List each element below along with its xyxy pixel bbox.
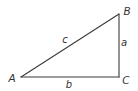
- side-label-b: b: [66, 80, 72, 90]
- side-label-c: c: [62, 35, 68, 45]
- side-c-hypotenuse: [21, 14, 119, 77]
- side-label-a: a: [121, 38, 127, 48]
- vertex-label-a: A: [8, 73, 15, 83]
- right-triangle-diagram: [0, 0, 138, 91]
- vertex-label-c: C: [122, 75, 129, 85]
- vertex-label-b: B: [123, 6, 130, 16]
